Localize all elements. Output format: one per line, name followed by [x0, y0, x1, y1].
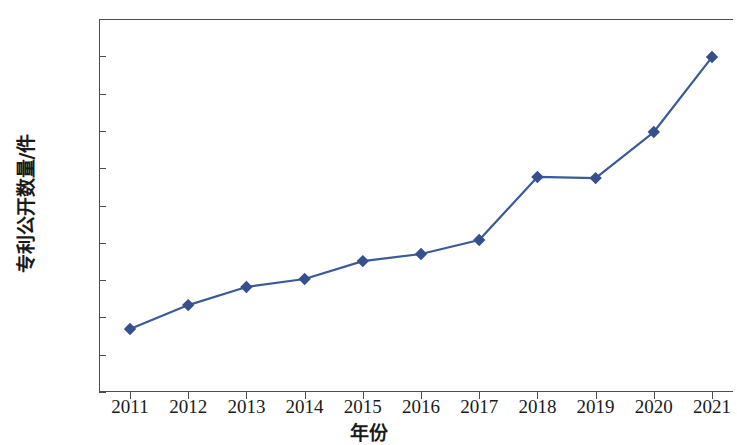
y-tick-mark [99, 317, 106, 318]
y-tick-mark [99, 280, 106, 281]
y-tick-mark [99, 131, 106, 132]
y-tick-mark [99, 355, 106, 356]
plot-area-frame [99, 19, 733, 392]
y-tick-mark [99, 243, 106, 244]
y-tick-mark [99, 56, 106, 57]
y-tick-mark [99, 206, 106, 207]
patent-publication-line-chart: 0200004000060000800001000001200001400001… [0, 0, 737, 445]
y-tick-mark [99, 168, 106, 169]
x-axis-title: 年份 [0, 418, 737, 445]
x-tick-label: 2021 [672, 396, 737, 418]
y-axis-title: 专利公开数量/件 [11, 94, 38, 314]
y-tick-mark [99, 19, 106, 20]
y-tick-mark [99, 392, 106, 393]
y-tick-mark [99, 94, 106, 95]
